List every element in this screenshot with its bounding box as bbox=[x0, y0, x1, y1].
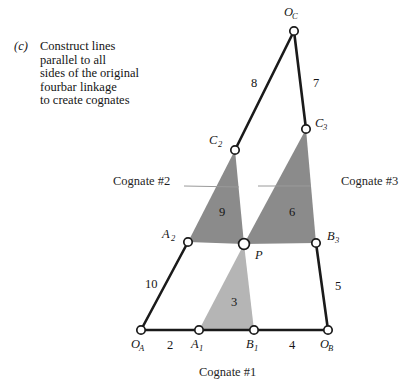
joint-label-sub-ob: B bbox=[328, 343, 333, 353]
caption-text: Construct linesparallel to allsides of t… bbox=[40, 40, 164, 108]
joint-label-sub-oc: C bbox=[292, 11, 298, 21]
pin-joint-ob bbox=[324, 326, 332, 334]
pin-joint-oc bbox=[290, 27, 298, 35]
cognate-1-label: Cognate #1 bbox=[199, 365, 256, 380]
pin-joint-oa bbox=[137, 326, 145, 334]
joint-label-sub-b1: 1 bbox=[254, 343, 258, 353]
triangle-6-number: 6 bbox=[289, 205, 295, 219]
part-marker: (c) bbox=[14, 40, 28, 54]
caption-line: fourbar linkage bbox=[40, 80, 117, 94]
link-number-5: 5 bbox=[335, 279, 341, 293]
caption-line: parallel to all bbox=[40, 53, 106, 67]
caption-line: to create cognates bbox=[40, 93, 130, 107]
pin-joint-a1 bbox=[195, 326, 203, 334]
triangle-9-number: 9 bbox=[219, 205, 225, 219]
joint-label-a2: A bbox=[161, 227, 170, 241]
link-number-10: 10 bbox=[145, 277, 158, 291]
pin-joint-b3 bbox=[312, 239, 320, 247]
pin-joint-c2 bbox=[231, 146, 239, 154]
joint-label-p: P bbox=[254, 248, 263, 262]
link-number-4: 4 bbox=[289, 338, 296, 352]
link-number-8: 8 bbox=[251, 76, 257, 90]
cognate-2-label: Cognate #2 bbox=[113, 174, 170, 189]
pin-joint-b1 bbox=[250, 326, 258, 334]
pin-joint-c3 bbox=[302, 125, 310, 133]
link-number-2: 2 bbox=[167, 338, 173, 352]
joint-label-b1: B bbox=[246, 337, 254, 351]
joint-label-c2: C bbox=[209, 133, 218, 147]
pin-joint-p bbox=[239, 239, 250, 250]
figure-page: OAA1B1OBA2PB3C2C3OC 396 2410587 (c) Cons… bbox=[0, 0, 419, 391]
cognate-3-label: Cognate #3 bbox=[341, 174, 398, 189]
joint-label-sub-c3: 3 bbox=[322, 122, 327, 132]
triangle-3 bbox=[199, 244, 254, 330]
triangle-3-number: 3 bbox=[231, 295, 237, 309]
joint-label-sub-b3: 3 bbox=[334, 235, 339, 245]
link-OC-C3 bbox=[294, 31, 306, 129]
link-OC-C2 bbox=[235, 31, 294, 150]
rocker-OB-B3 bbox=[316, 243, 328, 330]
joint-label-sub-a2: 2 bbox=[171, 233, 176, 243]
joint-label-a1: A bbox=[190, 337, 199, 351]
joint-label-b3: B bbox=[327, 229, 335, 243]
link-number-7: 7 bbox=[313, 76, 319, 90]
caption-line: Construct lines bbox=[40, 39, 115, 53]
pin-joint-a2 bbox=[184, 238, 192, 246]
joint-label-sub-oa: A bbox=[138, 343, 145, 353]
part-caption: (c) Construct linesparallel to allsides … bbox=[14, 40, 164, 108]
joint-label-sub-a1: 1 bbox=[199, 343, 203, 353]
joint-label-sub-c2: 2 bbox=[218, 139, 223, 149]
shaded-triangles-group bbox=[184, 129, 316, 330]
caption-line: sides of the original bbox=[40, 66, 139, 80]
triangle-9 bbox=[188, 150, 244, 244]
